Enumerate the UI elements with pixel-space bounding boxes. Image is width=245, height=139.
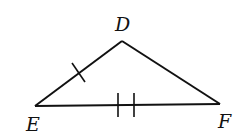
vertex-label-d: D [114, 13, 130, 35]
tick-de-1 [72, 63, 85, 82]
vertex-label-e: E [25, 113, 40, 135]
side-df [122, 41, 220, 104]
side-ef [35, 104, 220, 106]
vertex-label-f: F [217, 110, 232, 132]
triangle-diagram: D E F [0, 0, 245, 139]
triangle-def [35, 41, 220, 106]
